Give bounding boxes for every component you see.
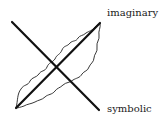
imaginary-axis-line (16, 23, 100, 108)
symbolic-axis-line (12, 22, 99, 110)
imaginary-label: imaginary (107, 8, 158, 18)
symbolic-label: symbolic (107, 104, 152, 114)
